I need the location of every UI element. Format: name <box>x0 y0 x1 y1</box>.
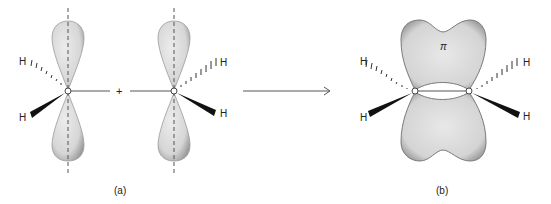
h-right-bottom-b: H <box>523 111 530 122</box>
carbon-atom-marker <box>65 88 71 94</box>
h-left-top-b: H <box>360 56 367 67</box>
h-left-bottom-b: H <box>360 112 367 123</box>
h-left-top-a: H <box>19 56 26 67</box>
h-right-top-a: H <box>220 57 227 68</box>
panel-a: + H H H H (a) <box>19 8 227 196</box>
h-left-bottom-a: H <box>19 112 26 123</box>
plus-sign: + <box>116 85 122 97</box>
carbon-atom-marker <box>466 88 472 94</box>
carbon-atom-marker <box>171 88 177 94</box>
pi-lobe-lower <box>401 92 486 161</box>
carbon-atom-marker <box>412 88 418 94</box>
panel-b-label: (b) <box>436 185 448 196</box>
pi-orbital-label: π <box>440 41 447 52</box>
hashed-bond-right-a <box>181 58 216 87</box>
hashed-bond-left-b <box>366 60 407 89</box>
orbital-diagram: + H H H H (a) <box>0 0 551 204</box>
pi-lobe-upper <box>401 20 486 90</box>
reaction-arrow <box>243 87 330 95</box>
panel-b: π H H <box>360 20 530 196</box>
hashed-bond-left-a <box>31 60 61 85</box>
wedge-bond-right-a <box>177 93 216 116</box>
hashed-bond-right-b <box>477 58 517 89</box>
h-right-bottom-a: H <box>220 108 227 119</box>
panel-a-label: (a) <box>114 185 126 196</box>
h-right-top-b: H <box>523 57 530 68</box>
